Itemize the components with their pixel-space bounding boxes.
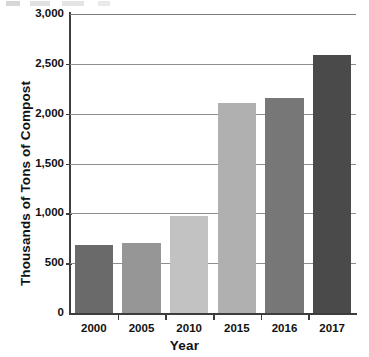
plot-area xyxy=(70,14,356,313)
x-tick-label-2005: 2005 xyxy=(129,322,155,334)
y-tick-label-2000: 2,000 xyxy=(18,108,64,120)
bar-2016 xyxy=(265,98,303,313)
y-tick-label-1500: 1,500 xyxy=(18,158,64,170)
x-tick-label-2017: 2017 xyxy=(319,322,345,334)
x-tick-label-2016: 2016 xyxy=(272,322,298,334)
y-tick-label-3000: 3,000 xyxy=(18,8,64,20)
y-tick-label-2500: 2,500 xyxy=(18,58,64,70)
x-tick-mark-2005 xyxy=(118,313,120,320)
x-tick-mark-2015 xyxy=(213,313,215,320)
x-axis-title: Year xyxy=(0,338,369,353)
x-tick-mark-2016 xyxy=(261,313,263,320)
x-tick-label-2015: 2015 xyxy=(224,322,250,334)
x-tick-label-2000: 2000 xyxy=(81,322,107,334)
x-tick-mark-2017 xyxy=(308,313,310,320)
x-tick-label-2010: 2010 xyxy=(176,322,202,334)
bar-2005 xyxy=(122,243,160,313)
y-tick-label-1000: 1,000 xyxy=(18,207,64,219)
y-tick-label-500: 500 xyxy=(18,257,64,269)
x-tick-mark-2010 xyxy=(165,313,167,320)
bar-2017 xyxy=(313,55,351,313)
y-tick-label-0: 0 xyxy=(18,307,64,319)
bars-group xyxy=(70,14,356,313)
bar-2015 xyxy=(218,103,256,313)
bar-2000 xyxy=(75,245,113,313)
bar-2010 xyxy=(170,216,208,313)
bar-chart: Thousands of Tons of Compost 05001,0001,… xyxy=(0,0,369,357)
